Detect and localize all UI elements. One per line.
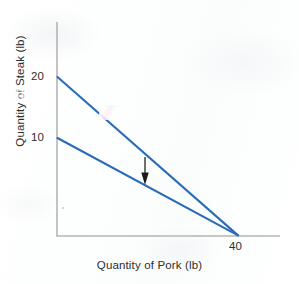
x-axis-title: Quantity of Pork (lb) [0, 259, 299, 271]
series-line-original-budget-constraint [58, 77, 239, 235]
y-tick-label-10: 10 [31, 131, 44, 143]
y-axis-title-container: Quantity of Steak (lb) [10, 26, 30, 156]
scan-speck-artifact [62, 207, 64, 209]
x-tick-label-40: 40 [229, 240, 242, 252]
y-tick-label-20: 20 [31, 70, 44, 82]
y-axis-title: Quantity of Steak (lb) [14, 35, 26, 146]
series-line-new-budget-constraint [58, 138, 239, 235]
plot-area [0, 0, 299, 284]
downward-shift-arrow-icon [141, 157, 148, 185]
figure-container: 20 10 40 Quantity of Pork (lb) Quantity … [0, 0, 299, 284]
